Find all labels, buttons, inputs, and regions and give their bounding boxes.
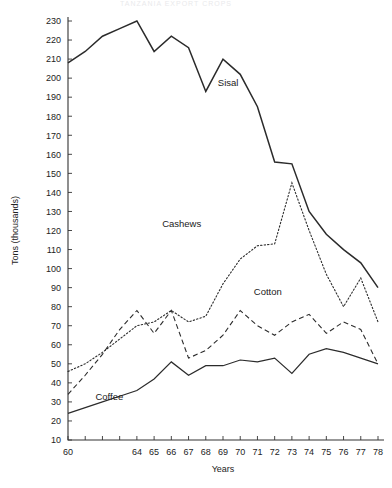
y-tick-label: 210 xyxy=(46,54,61,64)
x-tick-label: 78 xyxy=(373,447,383,457)
series-label-cashews: Cashews xyxy=(162,218,201,229)
y-tick-label: 100 xyxy=(46,264,61,274)
y-axis-ticks-group xyxy=(68,21,72,440)
x-tick-label: 69 xyxy=(218,447,228,457)
x-axis-ticks-group xyxy=(68,436,378,440)
x-tick-label: 64 xyxy=(132,447,142,457)
y-tick-label: 130 xyxy=(46,207,61,217)
x-tick-label: 70 xyxy=(235,447,245,457)
y-tick-label: 40 xyxy=(51,378,61,388)
y-tick-label: 60 xyxy=(51,340,61,350)
series-label-coffee: Coffee xyxy=(95,391,123,402)
series-line-sisal xyxy=(68,21,378,288)
x-tick-label: 75 xyxy=(321,447,331,457)
x-tick-label: 65 xyxy=(149,447,159,457)
y-tick-label: 170 xyxy=(46,131,61,141)
x-tick-label: 72 xyxy=(270,447,280,457)
x-tick-label: 76 xyxy=(339,447,349,457)
series-label-cotton: Cotton xyxy=(254,286,282,297)
y-tick-label: 20 xyxy=(51,416,61,426)
y-tick-labels-group: 1020304050607080901001101201301401501601… xyxy=(46,16,61,445)
y-tick-label: 190 xyxy=(46,92,61,102)
y-tick-label: 10 xyxy=(51,435,61,445)
y-tick-label: 30 xyxy=(51,397,61,407)
x-tick-label: 60 xyxy=(63,447,73,457)
series-annotations-group: SisalCashewsCottonCoffee xyxy=(95,77,281,402)
x-tick-label: 74 xyxy=(304,447,314,457)
x-tick-label: 66 xyxy=(166,447,176,457)
y-tick-label: 230 xyxy=(46,16,61,26)
x-axis-title: Years xyxy=(212,464,235,474)
axis-titles-group: YearsTons (thousands) xyxy=(10,196,235,474)
y-tick-label: 150 xyxy=(46,169,61,179)
y-tick-label: 160 xyxy=(46,150,61,160)
chart-container: TANZANIA EXPORT CROPS 102030405060708090… xyxy=(0,0,392,488)
x-tick-label: 77 xyxy=(356,447,366,457)
x-tick-labels-group: 60646566676869707172737475767778 xyxy=(63,447,383,457)
y-tick-label: 120 xyxy=(46,226,61,236)
y-tick-label: 220 xyxy=(46,35,61,45)
y-tick-label: 90 xyxy=(51,283,61,293)
y-axis-title: Tons (thousands) xyxy=(10,196,20,265)
series-label-sisal: Sisal xyxy=(218,77,239,88)
y-tick-label: 180 xyxy=(46,112,61,122)
y-tick-label: 50 xyxy=(51,359,61,369)
x-tick-label: 71 xyxy=(252,447,262,457)
series-line-coffee xyxy=(68,349,378,414)
series-line-cashews xyxy=(68,183,378,372)
y-tick-label: 200 xyxy=(46,73,61,83)
series-line-cotton xyxy=(68,310,378,394)
y-tick-label: 140 xyxy=(46,188,61,198)
y-tick-label: 110 xyxy=(47,245,61,255)
line-chart-svg: 1020304050607080901001101201301401501601… xyxy=(0,0,392,488)
y-tick-label: 80 xyxy=(51,302,61,312)
x-tick-label: 73 xyxy=(287,447,297,457)
x-tick-label: 68 xyxy=(201,447,211,457)
x-tick-label: 67 xyxy=(184,447,194,457)
y-tick-label: 70 xyxy=(51,321,61,331)
